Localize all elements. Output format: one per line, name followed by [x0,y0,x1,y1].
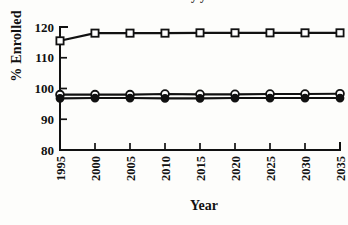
marker-open-square [336,29,343,36]
marker-filled-circle [161,95,168,102]
chart-figure: enrollment by year % Enrolled 8090100110… [0,0,348,225]
marker-open-square [56,37,63,44]
marker-open-square [196,29,203,36]
x-tick-label: 2020 [229,156,243,181]
marker-filled-circle [266,94,273,101]
marker-filled-circle [56,95,63,102]
marker-open-square [231,29,238,36]
x-axis-title: Year [60,198,348,214]
marker-filled-circle [126,94,133,101]
axis-spines [60,27,340,150]
x-tick-label: 2030 [299,156,313,181]
marker-open-square [266,29,273,36]
marker-open-square [126,30,133,37]
marker-filled-circle [301,94,308,101]
y-tick-label: 100 [35,81,55,96]
y-tick-label: 120 [35,20,55,35]
chart-axes [60,27,340,150]
x-tick-label: 2005 [124,156,138,181]
x-tick-label: 2000 [89,156,103,181]
marker-filled-circle [91,94,98,101]
x-axis-ticks: 199520002005201020152020202520302035 [54,143,348,181]
marker-open-square [301,29,308,36]
marker-open-square [161,30,168,37]
y-tick-label: 110 [35,50,54,65]
x-tick-label: 2025 [264,156,278,181]
y-tick-label: 90 [41,112,54,127]
x-tick-label: 2035 [334,156,348,181]
y-tick-label: 80 [41,143,54,158]
chart-series-group [56,29,344,102]
marker-open-square [91,30,98,37]
marker-filled-circle [336,94,343,101]
x-tick-label: 2015 [194,156,208,181]
x-tick-label: 1995 [54,156,68,181]
x-tick-label: 2010 [159,156,173,181]
marker-filled-circle [231,94,238,101]
marker-filled-circle [196,95,203,102]
chart-plot-area: 8090100110120 19952000200520102015202020… [0,0,348,225]
